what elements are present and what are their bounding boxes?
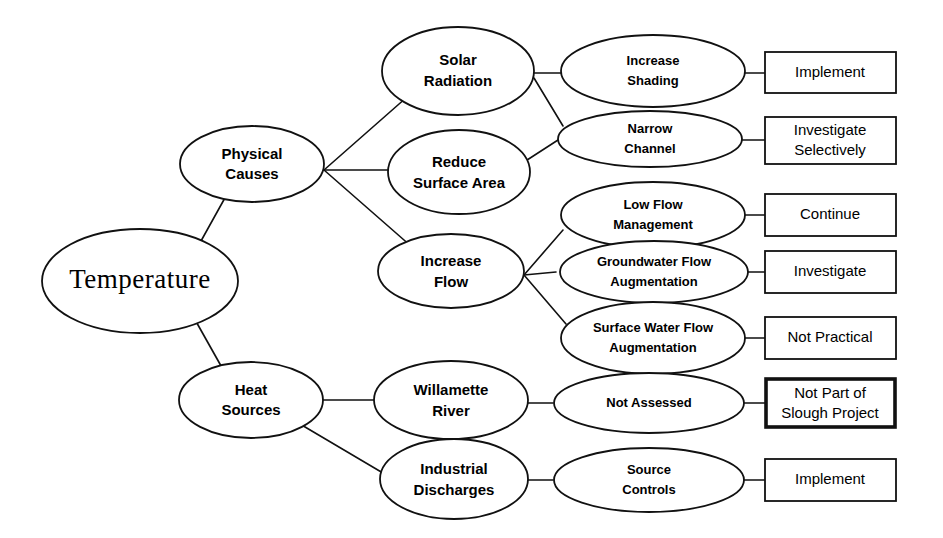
node-narrow-channel-label-line1: Narrow <box>628 121 674 136</box>
node-source-controls-label-line2: Controls <box>622 482 675 497</box>
node-increase-shading-label-line2: Shading <box>627 73 678 88</box>
node-source-controls-shape <box>554 448 744 512</box>
node-action-investigate[interactable]: Investigate <box>765 251 896 293</box>
node-temperature[interactable]: Temperature <box>42 229 238 333</box>
node-physical-causes[interactable]: Physical Causes <box>180 126 324 202</box>
node-groundwater-flow-augmentation-shape <box>560 241 748 303</box>
node-increase-shading-shape <box>561 35 745 107</box>
node-action-investigate-selectively-label-line2: Selectively <box>794 141 866 158</box>
node-source-controls-label-line1: Source <box>627 462 671 477</box>
node-action-implement-source-controls-label: Implement <box>795 470 866 487</box>
node-industrial-discharges-label-line2: Discharges <box>414 481 495 498</box>
node-groundwater-flow-augmentation-label-line2: Augmentation <box>610 274 697 289</box>
node-action-implement-shading-label: Implement <box>795 63 866 80</box>
edge-solar-radiation-to-narrow-channel <box>534 78 563 126</box>
node-increase-flow-label-line2: Flow <box>434 273 468 290</box>
node-willamette-river-label-line2: River <box>432 402 470 419</box>
edge-increase-flow-to-low-flow-management <box>524 230 563 275</box>
node-narrow-channel[interactable]: Narrow Channel <box>558 111 742 167</box>
node-surface-water-flow-augmentation-shape <box>561 302 745 374</box>
node-low-flow-management[interactable]: Low Flow Management <box>561 182 745 248</box>
node-willamette-river-shape <box>374 361 528 439</box>
node-reduce-surface-area[interactable]: Reduce Surface Area <box>388 130 530 214</box>
node-action-implement-source-controls[interactable]: Implement <box>765 459 896 501</box>
node-surface-water-flow-augmentation-label-line2: Augmentation <box>609 340 696 355</box>
node-surface-water-flow-augmentation-label-line1: Surface Water Flow <box>593 320 714 335</box>
node-action-not-part-of-slough-project-label-line1: Not Part of <box>794 384 867 401</box>
node-increase-flow-label-line1: Increase <box>421 252 482 269</box>
node-action-investigate-selectively[interactable]: Investigate Selectively <box>765 117 896 164</box>
node-action-continue[interactable]: Continue <box>765 194 896 236</box>
node-layer: Temperature Physical Causes Heat Sources… <box>42 27 896 519</box>
edge-increase-flow-to-groundwater-flow-augmentation <box>524 272 556 275</box>
node-solar-radiation-label-line2: Radiation <box>424 72 492 89</box>
node-narrow-channel-shape <box>558 111 742 167</box>
node-increase-shading[interactable]: Increase Shading <box>561 35 745 107</box>
node-source-controls[interactable]: Source Controls <box>554 448 744 512</box>
node-action-investigate-label: Investigate <box>794 262 867 279</box>
node-heat-sources[interactable]: Heat Sources <box>179 362 323 438</box>
node-temperature-label: Temperature <box>69 264 211 294</box>
node-solar-radiation[interactable]: Solar Radiation <box>382 27 534 115</box>
node-narrow-channel-label-line2: Channel <box>624 141 675 156</box>
node-increase-flow[interactable]: Increase Flow <box>378 234 524 308</box>
node-not-assessed[interactable]: Not Assessed <box>554 373 744 433</box>
node-groundwater-flow-augmentation-label-line1: Groundwater Flow <box>597 254 712 269</box>
node-low-flow-management-label-line1: Low Flow <box>623 197 683 212</box>
node-action-implement-shading[interactable]: Implement <box>765 52 896 93</box>
node-action-not-practical[interactable]: Not Practical <box>765 317 896 359</box>
node-industrial-discharges[interactable]: Industrial Discharges <box>380 439 528 519</box>
node-action-investigate-selectively-label-line1: Investigate <box>794 121 867 138</box>
node-low-flow-management-label-line2: Management <box>613 217 693 232</box>
edge-heat-sources-to-industrial-discharges <box>300 424 388 476</box>
node-increase-shading-label-line1: Increase <box>627 53 680 68</box>
node-solar-radiation-label-line1: Solar <box>439 51 477 68</box>
node-willamette-river-label-line1: Willamette <box>414 381 489 398</box>
edge-reduce-surface-area-to-narrow-channel <box>524 140 558 162</box>
node-groundwater-flow-augmentation[interactable]: Groundwater Flow Augmentation <box>560 241 748 303</box>
node-low-flow-management-shape <box>561 182 745 248</box>
diagram-canvas: Temperature Physical Causes Heat Sources… <box>0 0 943 538</box>
node-willamette-river[interactable]: Willamette River <box>374 361 528 439</box>
node-heat-sources-label-line2: Sources <box>221 401 280 418</box>
node-physical-causes-label-line1: Physical <box>222 145 283 162</box>
node-heat-sources-label-line1: Heat <box>235 381 268 398</box>
node-industrial-discharges-shape <box>380 439 528 519</box>
node-reduce-surface-area-shape <box>388 130 530 214</box>
node-action-not-practical-label: Not Practical <box>787 328 872 345</box>
node-increase-flow-shape <box>378 234 524 308</box>
node-reduce-surface-area-label-line2: Surface Area <box>413 174 506 191</box>
node-action-not-part-of-slough-project-label-line2: Slough Project <box>781 404 879 421</box>
node-surface-water-flow-augmentation[interactable]: Surface Water Flow Augmentation <box>561 302 745 374</box>
node-action-not-part-of-slough-project[interactable]: Not Part of Slough Project <box>766 379 895 427</box>
temperature-cause-tree: Temperature Physical Causes Heat Sources… <box>0 0 943 538</box>
edge-increase-flow-to-surface-water-flow-augmentation <box>524 275 566 324</box>
node-industrial-discharges-label-line1: Industrial <box>420 460 488 477</box>
node-physical-causes-label-line2: Causes <box>225 165 278 182</box>
node-not-assessed-label-line1: Not Assessed <box>606 395 692 410</box>
node-action-continue-label: Continue <box>800 205 860 222</box>
node-reduce-surface-area-label-line1: Reduce <box>432 153 486 170</box>
